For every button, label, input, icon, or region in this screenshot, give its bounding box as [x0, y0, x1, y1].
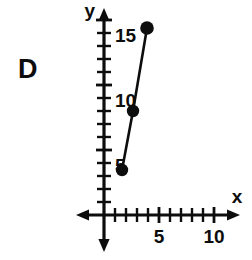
y-tick-label-10: 10 [115, 90, 136, 111]
x-axis-arrow-right [227, 209, 240, 220]
x-axis-label: x [232, 186, 243, 207]
y-tick-label-15: 15 [115, 25, 137, 46]
y-axis-arrow-down [98, 239, 109, 252]
x-axis [76, 207, 240, 223]
coordinate-plane-graph: 15 10 5 5 10 y x [0, 0, 252, 260]
data-point-marker [140, 21, 154, 35]
x-tick-label-5: 5 [154, 226, 165, 247]
x-tick-label-10: 10 [203, 226, 224, 247]
y-tick-label-5: 5 [115, 155, 126, 176]
y-axis-label: y [84, 0, 95, 21]
x-axis-arrow-left [76, 209, 89, 220]
